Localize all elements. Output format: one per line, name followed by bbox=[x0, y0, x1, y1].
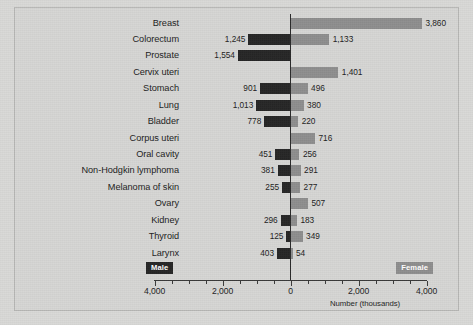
axis-tick-minor bbox=[376, 281, 377, 284]
chart-row: Colorectum1,2451,133 bbox=[0, 32, 473, 47]
bar-value-female: 277 bbox=[304, 180, 318, 195]
axis-tick-label: 4,000 bbox=[135, 286, 175, 296]
chart-row: Thyroid125349 bbox=[0, 229, 473, 244]
bar-male bbox=[256, 100, 290, 111]
bar-male bbox=[278, 165, 291, 176]
bar-value-male: 901 bbox=[197, 81, 257, 96]
category-label: Corpus uteri bbox=[130, 131, 179, 146]
bar-male bbox=[238, 50, 291, 61]
bar-value-female: 256 bbox=[303, 147, 317, 162]
category-label: Non-Hodgkin lymphoma bbox=[81, 163, 179, 178]
axis-tick-minor bbox=[206, 281, 207, 284]
bar-value-female: 380 bbox=[307, 98, 321, 113]
axis-tick-minor bbox=[342, 281, 343, 284]
bar-value-female: 3,860 bbox=[425, 16, 446, 31]
legend-badge-male: Male bbox=[146, 262, 173, 274]
bar-value-male: 1,554 bbox=[175, 48, 235, 63]
axis-tick-major bbox=[223, 281, 224, 286]
chart-row: Prostate1,554 bbox=[0, 48, 473, 63]
bar-value-male: 255 bbox=[219, 180, 279, 195]
chart-row: Oral cavity451256 bbox=[0, 147, 473, 162]
axis-tick-major bbox=[155, 281, 156, 286]
bar-value-female: 220 bbox=[302, 114, 316, 129]
bar-female bbox=[291, 67, 339, 78]
axis-tick-minor bbox=[257, 281, 258, 284]
chart-row: Corpus uteri716 bbox=[0, 131, 473, 146]
bar-female bbox=[291, 198, 308, 209]
legend-badge-female: Female bbox=[396, 262, 433, 274]
axis-tick-label: 0 bbox=[271, 286, 311, 296]
bar-female bbox=[291, 149, 300, 160]
bar-value-male: 381 bbox=[215, 163, 275, 178]
bar-value-male: 778 bbox=[201, 114, 261, 129]
category-label: Stomach bbox=[143, 81, 179, 96]
category-label: Ovary bbox=[155, 196, 179, 211]
bar-value-female: 1,133 bbox=[333, 32, 354, 47]
axis-tick-label: 2,000 bbox=[203, 286, 243, 296]
chart-row: Non-Hodgkin lymphoma381291 bbox=[0, 163, 473, 178]
bar-value-female: 496 bbox=[311, 81, 325, 96]
category-label: Bladder bbox=[148, 114, 179, 129]
category-label: Melanoma of skin bbox=[108, 180, 179, 195]
axis-tick-major bbox=[359, 281, 360, 286]
bar-value-male: 1,245 bbox=[185, 32, 245, 47]
bar-value-female: 54 bbox=[296, 246, 305, 261]
chart-row: Stomach901496 bbox=[0, 81, 473, 96]
bar-male bbox=[277, 248, 291, 259]
bar-value-male: 403 bbox=[214, 246, 274, 261]
bar-female bbox=[291, 215, 297, 226]
bar-value-female: 1,401 bbox=[342, 65, 363, 80]
axis-tick-minor bbox=[172, 281, 173, 284]
axis-tick-label: 4,000 bbox=[407, 286, 447, 296]
bar-male bbox=[248, 34, 290, 45]
chart-row: Kidney296183 bbox=[0, 213, 473, 228]
category-label: Cervix uteri bbox=[133, 65, 179, 80]
chart-row: Melanoma of skin255277 bbox=[0, 180, 473, 195]
category-label: Thyroid bbox=[149, 229, 179, 244]
bar-value-female: 349 bbox=[306, 229, 320, 244]
bar-value-female: 507 bbox=[311, 196, 325, 211]
axis-tick-minor bbox=[274, 281, 275, 284]
category-label: Oral cavity bbox=[136, 147, 179, 162]
bar-male bbox=[264, 116, 290, 127]
bar-value-male: 1,013 bbox=[193, 98, 253, 113]
axis-tick-minor bbox=[308, 281, 309, 284]
bar-female bbox=[291, 83, 308, 94]
category-label: Breast bbox=[153, 16, 179, 31]
bar-female bbox=[291, 231, 303, 242]
axis-tick-minor bbox=[189, 281, 190, 284]
bar-female bbox=[291, 18, 422, 29]
axis-tick-label: 2,000 bbox=[339, 286, 379, 296]
diverging-bar-chart: Breast3,860Colorectum1,2451,133Prostate1… bbox=[0, 0, 473, 325]
axis-tick-minor bbox=[325, 281, 326, 284]
bar-value-male: 451 bbox=[212, 147, 272, 162]
category-label: Colorectum bbox=[133, 32, 179, 47]
category-label: Larynx bbox=[152, 246, 179, 261]
bar-value-female: 291 bbox=[304, 163, 318, 178]
zero-axis-line bbox=[290, 14, 291, 281]
bar-value-female: 716 bbox=[319, 131, 333, 146]
axis-tick-major bbox=[291, 281, 292, 286]
category-label: Kidney bbox=[151, 213, 179, 228]
chart-row: Cervix uteri1,401 bbox=[0, 65, 473, 80]
chart-row: Lung1,013380 bbox=[0, 98, 473, 113]
bar-female bbox=[291, 116, 298, 127]
bar-value-male: 125 bbox=[223, 229, 283, 244]
bar-male bbox=[260, 83, 291, 94]
category-label: Lung bbox=[159, 98, 179, 113]
bar-male bbox=[275, 149, 290, 160]
bar-female bbox=[291, 34, 330, 45]
axis-tick-major bbox=[427, 281, 428, 286]
bar-value-male: 296 bbox=[218, 213, 278, 228]
chart-screenshot: Breast3,860Colorectum1,2451,133Prostate1… bbox=[0, 0, 473, 325]
axis-tick-minor bbox=[240, 281, 241, 284]
bar-value-female: 183 bbox=[300, 213, 314, 228]
chart-row: Larynx40354 bbox=[0, 246, 473, 261]
bar-female bbox=[291, 165, 301, 176]
bar-female bbox=[291, 182, 300, 193]
chart-row: Breast3,860 bbox=[0, 16, 473, 31]
bar-female bbox=[291, 100, 304, 111]
chart-row: Ovary507 bbox=[0, 196, 473, 211]
chart-row: Bladder778220 bbox=[0, 114, 473, 129]
x-axis-title: Number (thousands) bbox=[330, 299, 400, 308]
